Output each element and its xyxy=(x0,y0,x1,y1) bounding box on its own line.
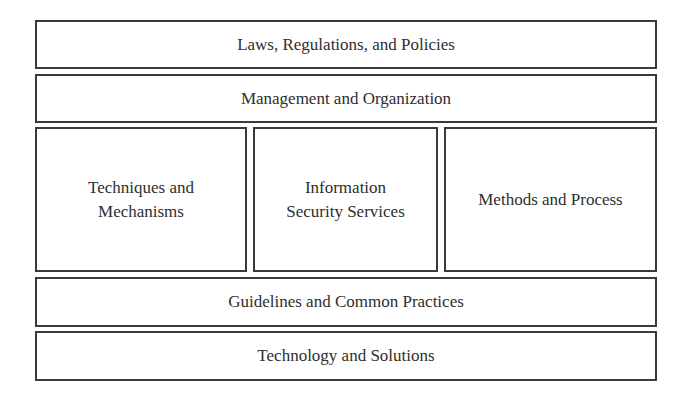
management-label: Management and Organization xyxy=(241,87,451,111)
technology-solutions-box: Technology and Solutions xyxy=(35,331,657,381)
management-organization-box: Management and Organization xyxy=(35,74,657,123)
techniques-label: Techniques and Mechanisms xyxy=(88,176,194,224)
laws-label: Laws, Regulations, and Policies xyxy=(237,33,455,57)
methods-process-box: Methods and Process xyxy=(444,127,657,272)
guidelines-label: Guidelines and Common Practices xyxy=(228,290,464,314)
methods-label: Methods and Process xyxy=(478,188,622,212)
techniques-mechanisms-box: Techniques and Mechanisms xyxy=(35,127,247,272)
technology-label: Technology and Solutions xyxy=(257,344,434,368)
laws-regulations-policies-box: Laws, Regulations, and Policies xyxy=(35,20,657,69)
information-security-services-box: Information Security Services xyxy=(253,127,438,272)
services-label: Information Security Services xyxy=(286,176,405,224)
guidelines-practices-box: Guidelines and Common Practices xyxy=(35,277,657,327)
